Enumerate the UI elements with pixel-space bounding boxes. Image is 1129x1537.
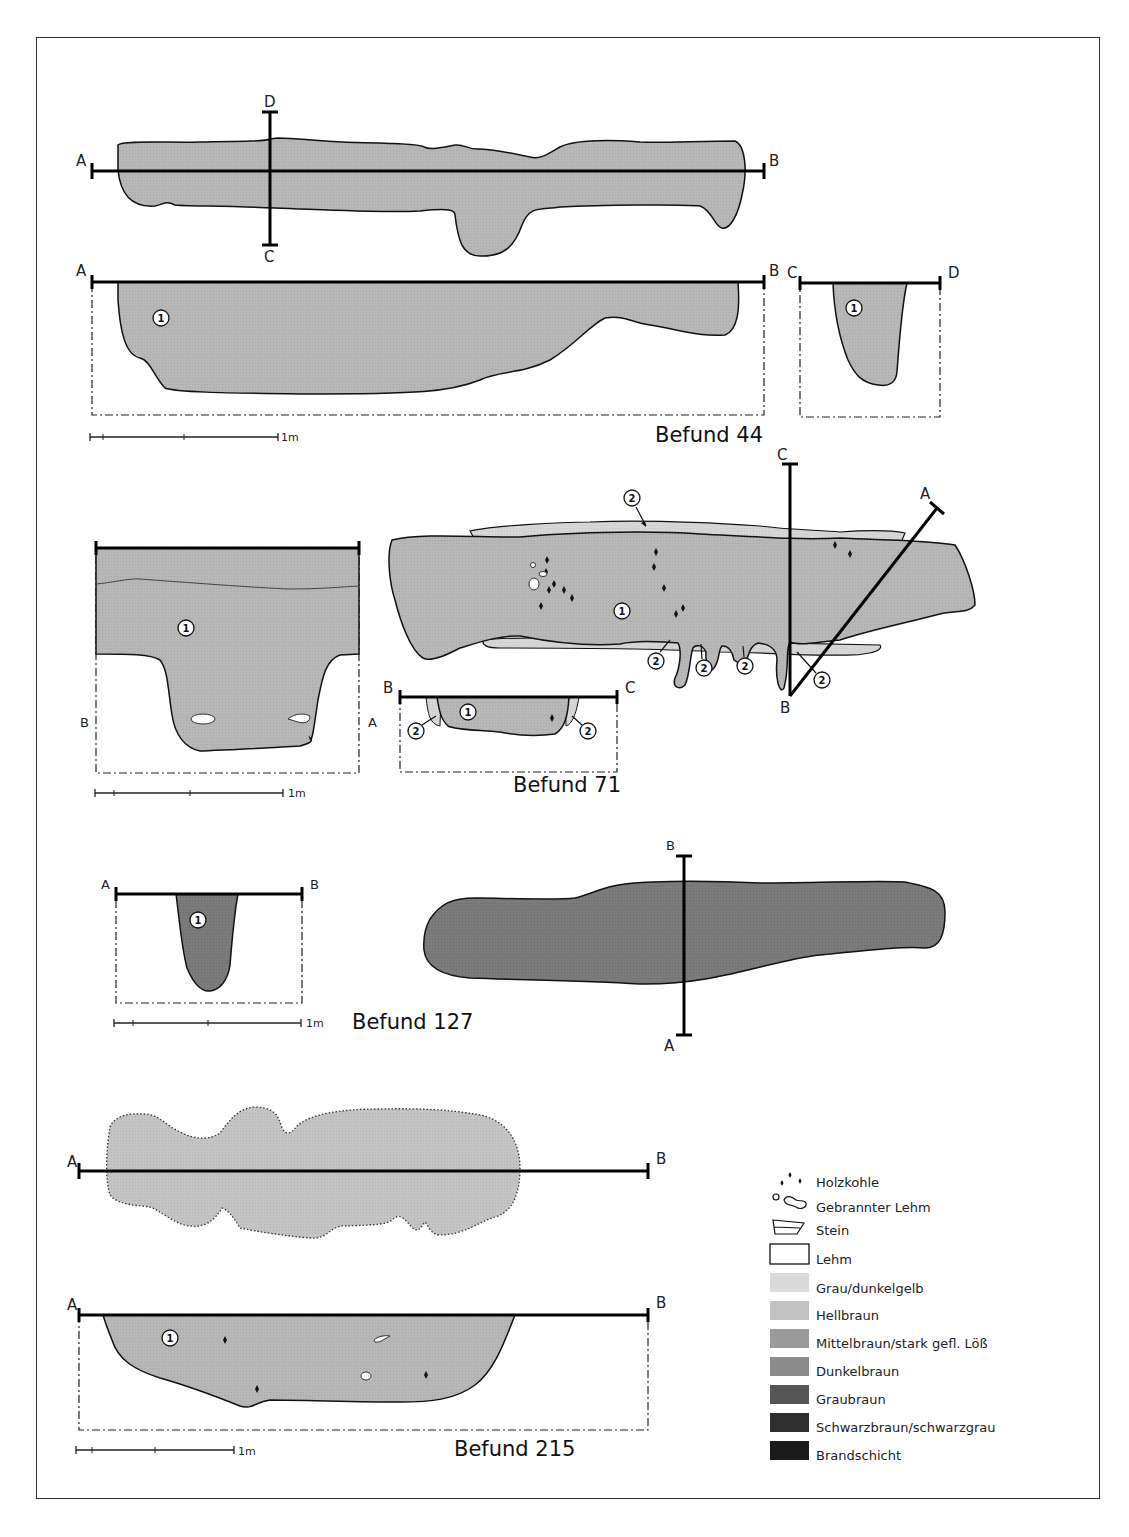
feature-outline [118, 138, 745, 256]
figure-title: Befund 127 [352, 1010, 473, 1034]
svg-text:1: 1 [619, 606, 626, 617]
layer-marker-1: 1 [162, 1330, 178, 1346]
befund-71-profile: B A 1 1m [80, 541, 377, 800]
svg-text:2: 2 [653, 656, 660, 667]
befund-44-plan: A B D C [76, 93, 779, 266]
svg-text:Stein: Stein [816, 1223, 849, 1238]
legend-item-holzkohle: Holzkohle [781, 1172, 880, 1190]
svg-text:Lehm: Lehm [816, 1252, 852, 1267]
befund-44-section-cd: C D 1 [787, 264, 960, 417]
svg-text:Grau/dunkelgelb: Grau/dunkelgelb [816, 1281, 924, 1296]
svg-text:Brandschicht: Brandschicht [816, 1448, 901, 1463]
svg-text:Schwarzbraun/schwarzgrau: Schwarzbraun/schwarzgrau [816, 1420, 996, 1435]
burnt-clay-inclusion [191, 714, 215, 724]
label-a: A [76, 262, 87, 280]
swatch [770, 1329, 809, 1348]
label-a: A [67, 1296, 78, 1314]
swatch [770, 1385, 809, 1404]
swatch [770, 1244, 809, 1264]
svg-text:Gebrannter Lehm: Gebrannter Lehm [816, 1200, 931, 1215]
befund-127-section: A B 1 1m [101, 877, 324, 1030]
stone-icon [773, 1220, 804, 1234]
scale-bar: 1m [95, 787, 306, 800]
label-b: B [656, 1294, 666, 1312]
swatch [770, 1441, 809, 1460]
label-a: A [368, 715, 377, 730]
burnt-clay-icon [773, 1194, 806, 1208]
feature-fill [103, 1315, 515, 1407]
label-a: A [920, 485, 931, 503]
befund-71-plan: C A B 1 2 2 2 [389, 446, 975, 717]
legend-item-gebrannter-lehm: Gebrannter Lehm [773, 1194, 931, 1215]
scale-label: 1m [288, 787, 306, 800]
befund-44: A B D C A B 1 C D [76, 93, 960, 447]
label-b: B [780, 699, 790, 717]
svg-text:Graubraun: Graubraun [816, 1392, 886, 1407]
scale-label: 1m [281, 431, 299, 444]
label-b: B [769, 152, 779, 170]
charcoal-icon [781, 1172, 802, 1186]
svg-text:2: 2 [413, 726, 420, 737]
scale-bar: 1m [114, 1017, 324, 1030]
svg-text:1: 1 [465, 707, 472, 718]
befund-44-section-ab: A B 1 [76, 262, 779, 415]
feature-outline [389, 532, 975, 690]
svg-text:1: 1 [158, 313, 165, 324]
figure-title: Befund 44 [655, 423, 763, 447]
label-b: B [656, 1150, 666, 1168]
scale-bar: 1m [90, 431, 299, 444]
label-b: B [383, 679, 393, 697]
label-b: B [769, 262, 779, 280]
figure-title: Befund 71 [513, 773, 621, 797]
legend-item-hellbraun: Hellbraun [770, 1301, 879, 1323]
label-b: B [666, 838, 675, 853]
swatch [770, 1301, 809, 1320]
layer-marker-1: 1 [460, 704, 476, 720]
svg-text:1: 1 [183, 623, 190, 634]
label-c: C [787, 264, 797, 282]
legend-item-mittelbraun: Mittelbraun/stark gefl. Löß [770, 1329, 988, 1351]
label-c: C [264, 248, 274, 266]
legend-item-lehm: Lehm [770, 1244, 852, 1267]
label-c: C [777, 446, 787, 464]
svg-text:Holzkohle: Holzkohle [816, 1175, 879, 1190]
feature-outline [107, 1107, 520, 1238]
feature-fill [833, 283, 907, 385]
swatch [770, 1413, 809, 1432]
befund-127: A B 1 1m Befund 127 B A [101, 838, 945, 1055]
layer-marker-1: 1 [846, 300, 862, 316]
label-d: D [948, 264, 960, 282]
svg-text:1: 1 [195, 915, 202, 926]
layer-marker-1: 1 [190, 912, 206, 928]
befund-71: B A 1 1m [80, 446, 975, 800]
feature-fill [437, 697, 569, 735]
layer-marker-1: 1 [153, 310, 169, 326]
feature-fill [96, 548, 359, 751]
svg-text:2: 2 [629, 493, 636, 504]
svg-text:2: 2 [819, 675, 826, 686]
label-b: B [80, 715, 89, 730]
legend: Holzkohle Gebrannter Lehm Stein Lehm Gra… [770, 1172, 996, 1463]
archaeological-plates: A B D C A B 1 C D [0, 0, 1129, 1537]
label-c: C [625, 679, 635, 697]
label-d: D [264, 93, 276, 111]
label-b: B [310, 877, 319, 892]
feature-fill [176, 894, 238, 991]
label-a: A [76, 152, 87, 170]
svg-text:Dunkelbraun: Dunkelbraun [816, 1364, 899, 1379]
figure-title: Befund 215 [454, 1437, 575, 1461]
befund-215-section: A B 1 1m [67, 1294, 666, 1458]
svg-text:Mittelbraun/stark gefl. Löß: Mittelbraun/stark gefl. Löß [816, 1336, 988, 1351]
svg-text:1: 1 [851, 303, 858, 314]
feature-fill [118, 282, 739, 394]
svg-text:2: 2 [701, 663, 708, 674]
layer-marker-1: 1 [614, 603, 630, 619]
scale-bar: 1m [76, 1445, 256, 1458]
layer-marker-2: 2 [572, 716, 596, 739]
befund-71-section-bc: B C 1 2 2 [383, 679, 635, 772]
legend-item-brandschicht: Brandschicht [770, 1441, 901, 1463]
scale-label: 1m [306, 1017, 324, 1030]
label-a: A [664, 1037, 675, 1055]
befund-127-plan: B A [424, 838, 945, 1055]
legend-item-schwarzbraun: Schwarzbraun/schwarzgrau [770, 1413, 996, 1435]
